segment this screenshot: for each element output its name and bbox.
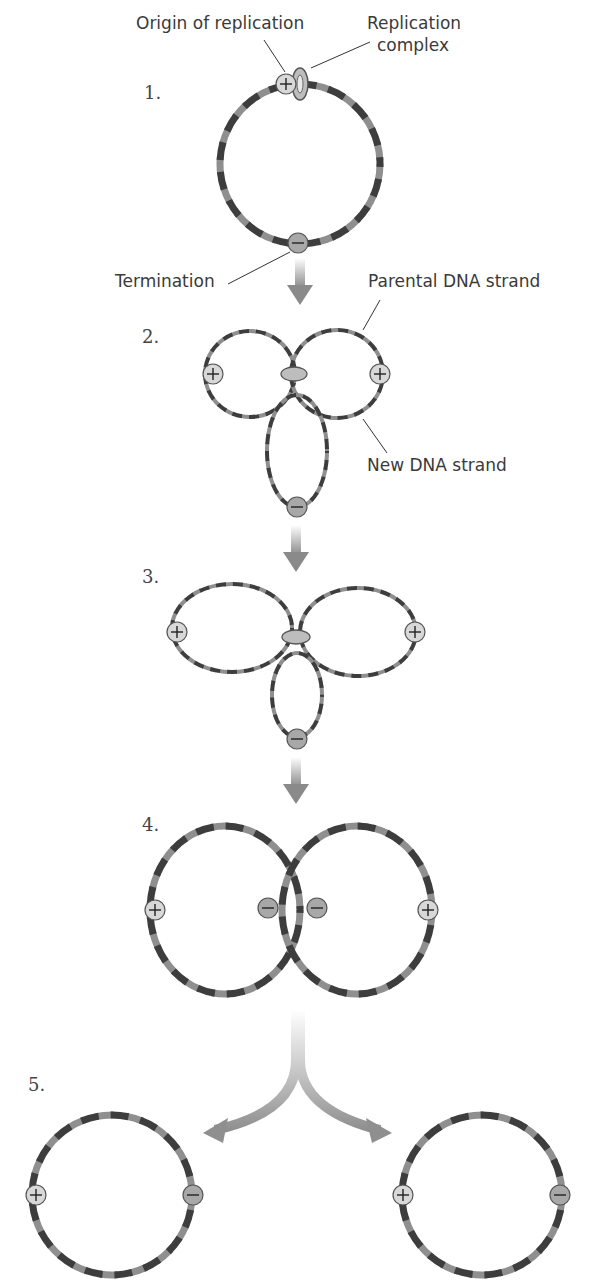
termination-minus-icon <box>287 729 307 749</box>
fork-arrow-icon <box>203 1010 392 1143</box>
replication-complex-icon <box>282 630 310 644</box>
termination-label: Termination <box>115 272 215 292</box>
replication-diagram <box>0 0 592 1281</box>
step2-bottom-loop <box>267 395 327 507</box>
new-strand-label: New DNA strand <box>367 456 507 476</box>
step3-left-loop <box>172 584 292 672</box>
replication-complex-icon <box>281 367 307 381</box>
origin-plus-icon <box>26 1185 46 1205</box>
complex-label-line2: complex <box>377 36 449 56</box>
origin-plus-icon <box>167 622 187 642</box>
step4-right-circle <box>282 826 432 994</box>
origin-plus-icon <box>405 622 425 642</box>
origin-plus-icon <box>393 1185 413 1205</box>
step5-right-circle <box>402 1115 562 1275</box>
termination-minus-icon <box>288 233 308 253</box>
origin-leader-line <box>264 40 285 72</box>
step-number-3: 3. <box>142 566 159 587</box>
arrow-down-icon <box>287 258 313 305</box>
origin-plus-icon <box>145 900 165 920</box>
origin-plus-icon <box>418 900 438 920</box>
new-strand-leader-line <box>363 419 387 453</box>
parental-strand-label: Parental DNA strand <box>368 272 540 292</box>
origin-plus-icon <box>276 74 296 94</box>
termination-minus-icon <box>287 497 307 517</box>
step5-left-circle <box>32 1115 192 1275</box>
origin-plus-icon <box>203 364 223 384</box>
complex-label-line1: Replication <box>367 14 461 34</box>
arrow-down-icon <box>283 525 309 572</box>
termination-minus-icon <box>550 1185 570 1205</box>
arrow-down-icon <box>283 757 309 804</box>
step1-circle <box>220 84 380 244</box>
origin-plus-icon <box>370 364 390 384</box>
termination-minus-icon <box>307 898 327 918</box>
origin-label: Origin of replication <box>136 14 304 34</box>
termination-minus-icon <box>258 898 278 918</box>
step-number-4: 4. <box>142 814 159 835</box>
step3-bottom-loop <box>272 653 322 737</box>
complex-leader-line <box>311 42 370 68</box>
step-number-5: 5. <box>28 1074 45 1095</box>
termination-minus-icon <box>183 1185 203 1205</box>
step-number-2: 2. <box>142 326 159 347</box>
termination-leader-line <box>228 252 290 284</box>
step-number-1: 1. <box>144 82 161 103</box>
parental-leader-line <box>363 300 380 330</box>
step3-right-loop <box>300 588 416 676</box>
